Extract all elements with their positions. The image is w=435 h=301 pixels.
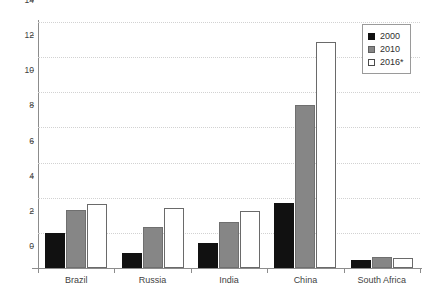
bar — [240, 211, 260, 268]
y-axis-tick-label: 8 — [8, 101, 34, 110]
y-axis-tick-label: 0 — [8, 242, 34, 251]
legend-swatch-icon — [368, 46, 375, 53]
bar — [219, 222, 239, 268]
bar — [66, 210, 86, 268]
bar — [372, 257, 392, 268]
bar — [198, 243, 218, 268]
bars — [191, 22, 267, 268]
category-label: China — [267, 275, 343, 285]
y-axis-tick-label: 10 — [8, 66, 34, 75]
bar — [316, 42, 336, 268]
category-separator — [267, 268, 268, 273]
bar — [351, 260, 371, 268]
legend-label: 2016* — [380, 58, 404, 67]
chart-legend: 2000 2010 2016* — [362, 24, 411, 74]
x-axis-line — [32, 268, 422, 269]
bar-group — [114, 22, 190, 268]
y-axis-tick-label: 12 — [8, 31, 34, 40]
bar-group — [191, 22, 267, 268]
bar — [295, 105, 315, 268]
bar-chart: 02468101214 BrazilRussiaIndiaChinaSouth … — [0, 0, 435, 301]
y-axis-tick-label: 2 — [8, 207, 34, 216]
legend-label: 2010 — [380, 45, 400, 54]
bars — [38, 22, 114, 268]
legend-item-2000: 2000 — [368, 30, 404, 42]
bar-group — [267, 22, 343, 268]
legend-item-2010: 2010 — [368, 43, 404, 55]
category-label: South Africa — [344, 275, 420, 285]
y-axis-tick-labels: 02468101214 — [0, 0, 34, 246]
bar-group — [38, 22, 114, 268]
legend-item-2016: 2016* — [368, 56, 404, 68]
y-axis-tick-label: 14 — [8, 0, 34, 5]
category-separator — [420, 268, 421, 273]
category-separator — [344, 268, 345, 273]
bar — [143, 227, 163, 268]
legend-swatch-icon — [368, 33, 375, 40]
bars — [267, 22, 343, 268]
category-label: Brazil — [38, 275, 114, 285]
bar — [164, 208, 184, 268]
bars — [114, 22, 190, 268]
bar — [274, 203, 294, 268]
y-axis-tick-label: 4 — [8, 172, 34, 181]
legend-swatch-icon — [368, 59, 375, 66]
y-axis-tick-label: 6 — [8, 137, 34, 146]
bar — [87, 204, 107, 268]
category-label: India — [191, 275, 267, 285]
bar — [393, 258, 413, 268]
category-separator — [191, 268, 192, 273]
category-separator — [114, 268, 115, 273]
legend-label: 2000 — [380, 32, 400, 41]
category-label: Russia — [114, 275, 190, 285]
category-separator — [38, 268, 39, 273]
bar — [122, 253, 142, 268]
bar — [45, 233, 65, 268]
